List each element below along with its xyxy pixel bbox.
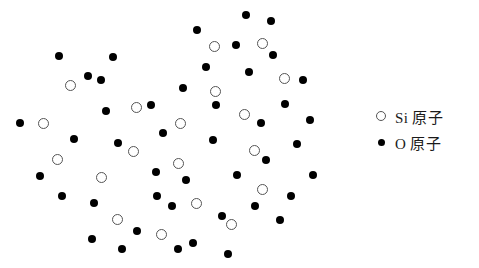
oxygen-atom — [306, 116, 314, 124]
oxygen-atom — [212, 101, 220, 109]
oxygen-atom — [109, 53, 117, 61]
oxygen-atom — [168, 202, 176, 210]
oxygen-atom — [55, 52, 63, 60]
oxygen-atom — [152, 168, 160, 176]
oxygen-atom — [218, 212, 226, 220]
legend-label-o: O 原子 — [390, 132, 441, 153]
silicon-atom — [175, 118, 186, 129]
oxygen-atom — [58, 192, 66, 200]
oxygen-atom — [281, 100, 289, 108]
silicon-atom — [257, 38, 268, 49]
silicon-atom — [96, 172, 107, 183]
o-filled-circle-icon — [372, 139, 390, 146]
oxygen-atom — [309, 171, 317, 179]
silicon-atom — [209, 41, 220, 52]
silicon-atom — [191, 198, 202, 209]
oxygen-atom — [133, 227, 141, 235]
oxygen-atom — [70, 135, 78, 143]
silicon-atom — [52, 154, 63, 165]
legend-item-o: O 原子 — [372, 129, 476, 155]
oxygen-atom — [118, 245, 126, 253]
oxygen-atom — [84, 72, 92, 80]
oxygen-atom — [257, 119, 265, 127]
oxygen-atom — [267, 17, 275, 25]
oxygen-atom — [276, 216, 284, 224]
oxygen-atom — [287, 192, 295, 200]
atom-network — [0, 0, 340, 268]
oxygen-atom — [251, 202, 259, 210]
oxygen-atom — [159, 129, 167, 137]
oxygen-atom — [88, 235, 96, 243]
oxygen-atom — [224, 250, 232, 258]
oxygen-atom — [179, 84, 187, 92]
oxygen-atom — [262, 156, 270, 164]
silicon-atom — [226, 219, 237, 230]
oxygen-atom — [209, 136, 217, 144]
si-open-circle-icon — [372, 111, 390, 121]
oxygen-atom — [174, 245, 182, 253]
oxygen-atom — [299, 76, 307, 84]
silicon-atom — [131, 102, 142, 113]
silicon-atom — [65, 80, 76, 91]
oxygen-atom — [269, 51, 277, 59]
oxygen-atom — [242, 11, 250, 19]
legend-item-si: Si 原子 — [372, 103, 476, 129]
silicon-atom — [249, 145, 260, 156]
legend-label-si: Si 原子 — [390, 106, 443, 127]
oxygen-atom — [147, 101, 155, 109]
oxygen-atom — [102, 107, 110, 115]
silicon-atom — [156, 229, 167, 240]
oxygen-atom — [245, 68, 253, 76]
oxygen-atom — [189, 239, 197, 247]
silicon-atom — [239, 109, 250, 120]
oxygen-atom — [153, 192, 161, 200]
silicon-atom — [210, 86, 221, 97]
oxygen-atom — [36, 172, 44, 180]
structure-diagram: Si 原子 O 原子 — [0, 0, 479, 268]
oxygen-atom — [202, 63, 210, 71]
silicon-atom — [128, 146, 139, 157]
oxygen-atom — [193, 26, 201, 34]
oxygen-atom — [114, 139, 122, 147]
silicon-atom — [257, 184, 268, 195]
silicon-atom — [279, 73, 290, 84]
oxygen-atom — [97, 76, 105, 84]
oxygen-atom — [90, 199, 98, 207]
oxygen-atom — [16, 119, 24, 127]
oxygen-atom — [293, 140, 301, 148]
legend: Si 原子 O 原子 — [372, 103, 476, 155]
silicon-atom — [38, 118, 49, 129]
oxygen-atom — [233, 171, 241, 179]
oxygen-atom — [182, 176, 190, 184]
oxygen-atom — [232, 41, 240, 49]
silicon-atom — [112, 214, 123, 225]
silicon-atom — [173, 158, 184, 169]
